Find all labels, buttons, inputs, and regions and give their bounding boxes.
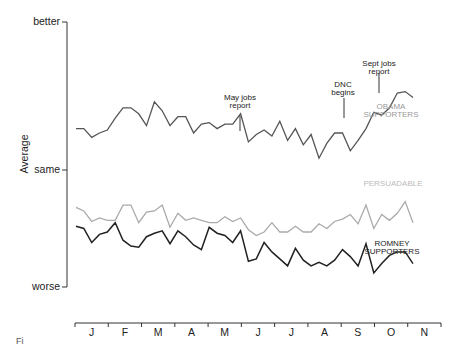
month-label: A xyxy=(188,326,195,338)
line-chart: better same worse Average JFMAMJJASON Ma… xyxy=(0,0,457,350)
y-tick-label-better: better xyxy=(33,15,60,27)
month-label: A xyxy=(321,326,328,338)
month-label: M xyxy=(220,326,229,338)
obama-label-2: SUPPORTERS xyxy=(364,110,419,119)
month-label: O xyxy=(387,326,395,338)
dnc-label-2: begins xyxy=(331,88,355,97)
y-axis-label: Average xyxy=(18,134,30,173)
romney-label-2: SUPPORTERS xyxy=(365,247,420,256)
figure-caption: Fi xyxy=(16,336,24,346)
y-tick-label-same: same xyxy=(34,163,60,175)
month-labels: JFMAMJJASON xyxy=(89,326,428,338)
month-label: M xyxy=(154,326,163,338)
y-tick-label-worse: worse xyxy=(31,280,60,292)
month-label: F xyxy=(122,326,128,338)
may-jobs-label-2: report xyxy=(230,101,252,110)
persuadable-label: PERSUADABLE xyxy=(363,179,422,188)
persuadable-line xyxy=(76,202,413,236)
sept-jobs-label-2: report xyxy=(369,67,391,76)
month-label: N xyxy=(421,326,429,338)
romney-supporters-line xyxy=(76,223,413,273)
month-label: J xyxy=(289,326,294,338)
month-label: J xyxy=(89,326,94,338)
month-label: S xyxy=(354,326,361,338)
month-label: J xyxy=(255,326,260,338)
